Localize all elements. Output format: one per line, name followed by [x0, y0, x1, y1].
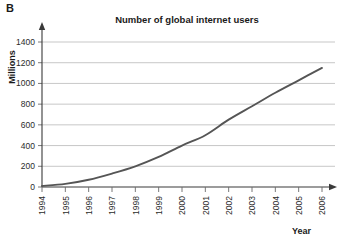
- y-tick-labels: 0200400600800100012001400: [16, 37, 35, 192]
- y-axis-arrow: [39, 22, 45, 30]
- x-tick-marks: [42, 187, 322, 192]
- y-tick-label: 1200: [16, 58, 35, 68]
- x-tick-label: 2004: [271, 196, 281, 215]
- y-tick-label: 800: [21, 99, 35, 109]
- axis-lines: [39, 22, 337, 190]
- data-series: [42, 68, 322, 186]
- y-tick-label: 200: [21, 161, 35, 171]
- x-tick-label: 2006: [317, 196, 327, 215]
- y-tick-label: 1400: [16, 37, 35, 47]
- line-chart-plot: 0200400600800100012001400 19941995199619…: [0, 0, 341, 241]
- x-tick-label: 1995: [61, 196, 71, 215]
- x-tick-label: 1998: [131, 196, 141, 215]
- data-line-global-internet-users: [42, 68, 322, 186]
- x-tick-label: 2005: [294, 196, 304, 215]
- x-tick-label: 1996: [84, 196, 94, 215]
- x-tick-label: 2003: [247, 196, 257, 215]
- x-tick-label: 2002: [224, 196, 234, 215]
- x-tick-label: 1994: [37, 196, 47, 215]
- x-axis-arrow: [329, 184, 337, 190]
- y-tick-label: 1000: [16, 78, 35, 88]
- y-tick-label: 0: [30, 182, 35, 192]
- y-tick-label: 400: [21, 141, 35, 151]
- x-tick-label: 1997: [107, 196, 117, 215]
- x-tick-label: 1999: [154, 196, 164, 215]
- chart-figure: B Number of global internet users Millio…: [0, 0, 341, 241]
- x-tick-labels: 1994199519961997199819992000200120022003…: [37, 196, 327, 215]
- y-tick-label: 600: [21, 120, 35, 130]
- x-tick-label: 2001: [201, 196, 211, 215]
- y-tick-marks: [38, 42, 42, 187]
- gridlines: [42, 42, 335, 166]
- x-tick-label: 2000: [177, 196, 187, 215]
